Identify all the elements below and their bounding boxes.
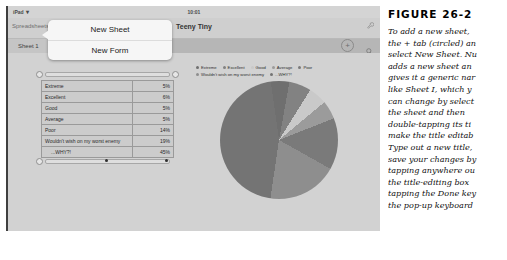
- table-grid: Extreme 5% Excellent 6% Good 5% Averag: [41, 80, 174, 158]
- selection-dot[interactable]: [165, 159, 168, 162]
- cell-value[interactable]: 5%: [133, 81, 173, 91]
- caption-line: select New Sheet. Nu: [388, 49, 507, 61]
- caption-line: adds a new sheet an: [388, 61, 507, 73]
- legend-item: Poor: [298, 65, 312, 70]
- legend-label: Average: [277, 65, 293, 70]
- caption-line: gives it a generic nar: [388, 72, 507, 84]
- caption-line: Type out a new title,: [388, 142, 507, 154]
- legend-swatch-icon: [272, 66, 275, 69]
- cell-value[interactable]: 6%: [133, 92, 173, 102]
- figure-caption: FIGURE 26-2 To add a new sheet,the + tab…: [388, 8, 507, 256]
- cell-value[interactable]: 5%: [133, 114, 173, 124]
- legend-swatch-icon: [196, 73, 199, 76]
- legend-label: Wouldn't wish on my worst enemy: [201, 72, 264, 77]
- legend-label: Poor: [303, 65, 312, 70]
- status-bar: iPad ▾ 10:01: [8, 6, 380, 18]
- column-handle-bar[interactable]: [45, 72, 170, 77]
- legend-item: Wouldn't wish on my worst enemy: [196, 72, 264, 77]
- wrench-icon[interactable]: [367, 22, 374, 29]
- figure-number: FIGURE 26-2: [388, 8, 507, 20]
- table-row[interactable]: Excellent 6%: [42, 92, 173, 103]
- legend-item: Average: [272, 65, 293, 70]
- legend-label: Extreme: [201, 65, 217, 70]
- cell-label[interactable]: ...WHY?!: [42, 147, 133, 157]
- add-sheet-tab-button[interactable]: +: [345, 40, 350, 52]
- caption-line: make the title editab: [388, 130, 507, 142]
- figure-page: iPad ▾ 10:01 Spreadsheets Teeny Tiny She…: [0, 0, 507, 260]
- table-row[interactable]: ...WHY?! 45%: [42, 147, 173, 158]
- legend-label: Excellent: [228, 65, 245, 70]
- table-handle-bottom-left[interactable]: [36, 158, 43, 165]
- pie-chart[interactable]: [220, 81, 338, 199]
- cell-label[interactable]: Poor: [42, 125, 133, 135]
- chart-legend: Extreme Excellent Good Average: [196, 65, 361, 78]
- legend-swatch-icon: [298, 66, 301, 69]
- cell-label[interactable]: Average: [42, 114, 133, 124]
- data-table[interactable]: Extreme 5% Excellent 6% Good 5% Averag: [41, 71, 174, 166]
- legend-swatch-icon: [196, 66, 199, 69]
- legend-label: ...WHY?!: [275, 72, 292, 77]
- table-row[interactable]: Extreme 5%: [42, 81, 173, 92]
- cell-label[interactable]: Excellent: [42, 92, 133, 102]
- table-handle-left[interactable]: [36, 71, 43, 78]
- pie-slices[interactable]: [220, 81, 338, 199]
- legend-swatch-icon: [270, 73, 273, 76]
- popover-arrow: [42, 30, 49, 40]
- legend-item: ...WHY?!: [270, 72, 292, 77]
- legend-item: Good: [251, 65, 266, 70]
- ipad-screenshot: iPad ▾ 10:01 Spreadsheets Teeny Tiny She…: [6, 6, 380, 231]
- legend-swatch-icon: [223, 66, 226, 69]
- caption-line: tapping the Done key: [388, 188, 507, 200]
- tab-sheet-1[interactable]: Sheet 1: [8, 39, 49, 53]
- sheet-canvas[interactable]: Extreme 5% Excellent 6% Good 5% Averag: [8, 53, 380, 231]
- caption-line: To add a new sheet,: [388, 26, 507, 38]
- caption-line: the sheet and then: [388, 107, 507, 119]
- pie-chart-object[interactable]: Extreme Excellent Good Average: [196, 65, 368, 199]
- caption-line: can change by select: [388, 96, 507, 108]
- new-sheet-popover: New Sheet New Form: [48, 20, 172, 60]
- menu-item-new-sheet[interactable]: New Sheet: [48, 20, 172, 40]
- legend-item: Excellent: [223, 65, 245, 70]
- caption-line: tapping anywhere ou: [388, 165, 507, 177]
- legend-item: Extreme: [196, 65, 217, 70]
- cell-label[interactable]: Wouldn't wish on my worst enemy: [42, 136, 133, 146]
- caption-line: the + tab (circled) an: [388, 38, 507, 50]
- cell-value[interactable]: 14%: [133, 125, 173, 135]
- caption-line: the pop-up keyboard: [388, 200, 507, 212]
- table-bottom-handles: [41, 158, 174, 166]
- table-top-handles: [41, 71, 174, 80]
- cell-value[interactable]: 5%: [133, 103, 173, 113]
- table-row[interactable]: Average 5%: [42, 114, 173, 125]
- caption-line: like Sheet I, which y: [388, 84, 507, 96]
- cell-value[interactable]: 45%: [133, 147, 173, 157]
- cell-label[interactable]: Good: [42, 103, 133, 113]
- selection-dot[interactable]: [105, 159, 108, 162]
- menu-item-new-form[interactable]: New Form: [48, 40, 172, 60]
- legend-swatch-icon: [251, 66, 254, 69]
- status-time: 10:01: [8, 9, 380, 15]
- figure-caption-text: To add a new sheet,the + tab (circled) a…: [388, 26, 507, 212]
- nav-icon-group: [367, 22, 374, 29]
- table-row[interactable]: Good 5%: [42, 103, 173, 114]
- table-row[interactable]: Wouldn't wish on my worst enemy 19%: [42, 136, 173, 147]
- caption-line: the title-editing box: [388, 177, 507, 189]
- caption-line: double-tapping its ti: [388, 119, 507, 131]
- table-row[interactable]: Poor 14%: [42, 125, 173, 136]
- cell-label[interactable]: Extreme: [42, 81, 133, 91]
- caption-line: save your changes by: [388, 154, 507, 166]
- table-handle-right[interactable]: [172, 71, 179, 78]
- legend-label: Good: [256, 65, 266, 70]
- cell-value[interactable]: 19%: [133, 136, 173, 146]
